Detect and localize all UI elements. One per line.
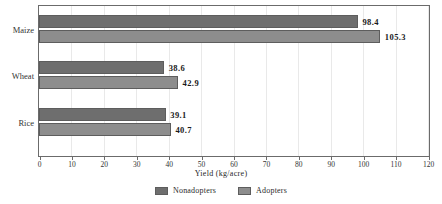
x-tick-label-20: 20 (92, 160, 116, 169)
bar-wheat-nonadopters (39, 61, 164, 74)
chart-legend: NonadoptersAdopters (0, 186, 442, 195)
x-tick-label-10: 10 (60, 160, 84, 169)
gridline (234, 6, 235, 156)
bar-maize-adopters (39, 30, 380, 43)
legend-swatch-icon (238, 187, 251, 195)
legend-item-nonadopters[interactable]: Nonadopters (155, 186, 216, 195)
gridline (363, 6, 364, 156)
bar-maize-nonadopters (39, 15, 358, 28)
bar-label-rice-nonadopters: 39.1 (170, 109, 186, 122)
category-label-rice: Rice (0, 118, 34, 128)
category-label-maize: Maize (0, 25, 34, 35)
bar-label-wheat-nonadopters: 38.6 (169, 62, 185, 75)
legend-label: Adopters (256, 186, 287, 195)
bar-rice-nonadopters (39, 108, 166, 121)
x-tick-label-0: 0 (28, 160, 52, 169)
x-tick-label-90: 90 (319, 160, 343, 169)
bar-label-rice-adopters: 40.7 (175, 124, 191, 137)
gridline (428, 6, 429, 156)
bar-chart: MaizeWheatRice 98.4105.338.642.939.140.7… (0, 0, 442, 204)
gridline (266, 6, 267, 156)
gridline (396, 6, 397, 156)
x-tick-label-120: 120 (417, 160, 441, 169)
x-tick-label-100: 100 (352, 160, 376, 169)
gridline (331, 6, 332, 156)
bar-label-maize-adopters: 105.3 (385, 31, 406, 44)
bar-rice-adopters (39, 123, 171, 136)
x-tick-label-50: 50 (190, 160, 214, 169)
x-tick-label-60: 60 (222, 160, 246, 169)
x-tick-label-40: 40 (157, 160, 181, 169)
legend-swatch-icon (155, 187, 168, 195)
x-axis-title: Yield (kg/acre) (0, 169, 442, 178)
legend-label: Nonadopters (173, 186, 216, 195)
bar-wheat-adopters (39, 76, 178, 89)
x-tick-label-80: 80 (287, 160, 311, 169)
x-tick-label-30: 30 (125, 160, 149, 169)
legend-item-adopters[interactable]: Adopters (238, 186, 287, 195)
x-tick-label-110: 110 (384, 160, 408, 169)
bar-label-maize-nonadopters: 98.4 (362, 16, 378, 29)
category-label-wheat: Wheat (0, 71, 34, 81)
gridline (298, 6, 299, 156)
bar-label-wheat-adopters: 42.9 (183, 77, 199, 90)
gridline (201, 6, 202, 156)
x-tick-label-70: 70 (254, 160, 278, 169)
